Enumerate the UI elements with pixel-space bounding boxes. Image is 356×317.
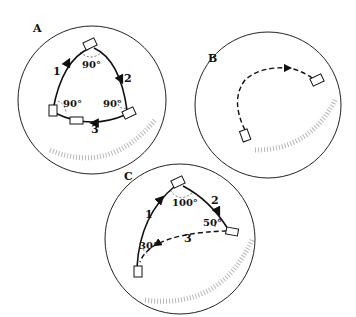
segment-label: 2 xyxy=(124,72,132,85)
sphere-a xyxy=(18,26,166,174)
panel-c: C 1 2 3 100° 50° 30° xyxy=(105,164,255,314)
dashed-path-b xyxy=(238,68,316,130)
panel-a-label: A xyxy=(32,22,42,35)
panel-b: B xyxy=(195,32,341,178)
vector-box xyxy=(310,74,324,86)
vector-box xyxy=(70,117,83,124)
segment-label: 1 xyxy=(145,208,153,221)
segment-a-3 xyxy=(55,113,125,122)
sphere-a-shading xyxy=(50,120,155,158)
vector-box xyxy=(122,107,136,119)
angle-label: 90° xyxy=(103,98,122,109)
angle-label: 50° xyxy=(203,217,222,228)
parallel-transport-diagram: A 1 2 3 90° 90° 90° B C xyxy=(0,0,356,317)
sphere-c-shading xyxy=(145,240,252,301)
segment-label: 3 xyxy=(184,232,192,245)
angle-label: 30° xyxy=(139,240,158,251)
vector-box xyxy=(226,227,239,236)
vector-box xyxy=(49,105,57,116)
panel-a: A 1 2 3 90° 90° 90° xyxy=(18,22,166,174)
diagram-svg: A 1 2 3 90° 90° 90° B C xyxy=(0,0,356,317)
segment-label: 3 xyxy=(91,123,99,136)
sphere-b-shading xyxy=(255,100,335,150)
sphere-c xyxy=(105,164,255,314)
vector-box xyxy=(134,266,142,277)
segment-label: 1 xyxy=(53,65,61,78)
angle-label: 90° xyxy=(63,98,82,109)
segment-label: 2 xyxy=(211,194,219,207)
angle-label: 90° xyxy=(82,59,101,70)
vector-box xyxy=(240,129,251,142)
segment-c-1 xyxy=(137,186,175,267)
angle-label: 100° xyxy=(172,197,198,208)
